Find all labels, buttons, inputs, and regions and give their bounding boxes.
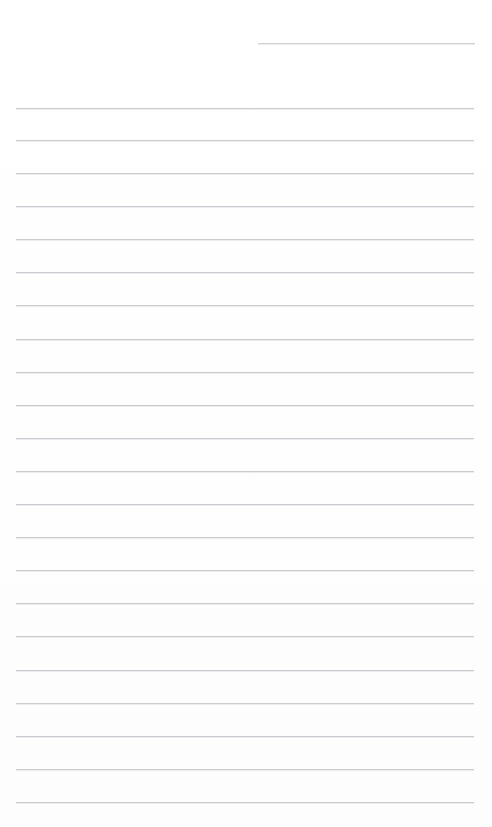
writing-line[interactable]: [16, 473, 474, 505]
writing-line[interactable]: [16, 274, 474, 306]
header-rule: [258, 43, 475, 44]
writing-line[interactable]: [16, 208, 474, 240]
writing-line[interactable]: [16, 605, 474, 637]
writing-line[interactable]: [16, 142, 474, 174]
writing-line[interactable]: [16, 572, 474, 604]
writing-line[interactable]: [16, 241, 474, 273]
writing-line[interactable]: [16, 175, 474, 207]
writing-line[interactable]: [16, 440, 474, 472]
writing-line[interactable]: [16, 539, 474, 571]
writing-line[interactable]: [16, 738, 474, 770]
writing-line[interactable]: [16, 77, 474, 109]
document-page: [0, 0, 492, 827]
writing-line[interactable]: [16, 341, 474, 373]
writing-line[interactable]: [16, 407, 474, 439]
writing-line[interactable]: [16, 374, 474, 406]
writing-line[interactable]: [16, 308, 474, 340]
writing-line[interactable]: [16, 639, 474, 671]
writing-line[interactable]: [16, 771, 474, 803]
writing-line[interactable]: [16, 672, 474, 704]
writing-line[interactable]: [16, 705, 474, 737]
writing-line[interactable]: [16, 109, 474, 141]
writing-line[interactable]: [16, 506, 474, 538]
